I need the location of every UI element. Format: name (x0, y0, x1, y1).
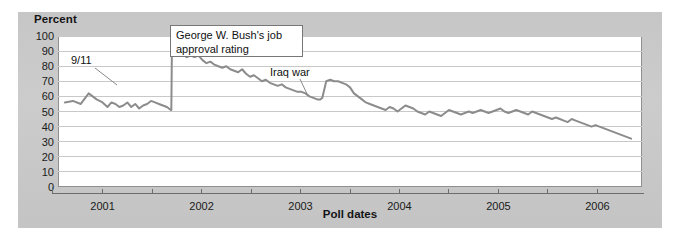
y-tick-label: 80 (24, 61, 54, 71)
y-tick-label: 0 (24, 182, 54, 192)
approval-rating-line (58, 36, 642, 187)
callout-line-2: approval rating (176, 43, 302, 57)
annotation-nine-eleven: 9/11 (71, 54, 92, 66)
annotation-iraq-war: Iraq war (270, 66, 310, 78)
x-axis-title: Poll dates (58, 208, 642, 220)
y-tick-label: 50 (24, 107, 54, 117)
y-tick-label: 60 (24, 91, 54, 101)
y-axis-title: Percent (34, 13, 77, 25)
y-tick-label: 10 (24, 167, 54, 177)
callout-line-1: George W. Bush's job (176, 29, 302, 43)
chart-figure: Percent 1009080706050403020100 George W.… (0, 0, 678, 244)
y-tick-label: 40 (24, 122, 54, 132)
y-tick-label: 20 (24, 152, 54, 162)
y-tick-label: 100 (24, 31, 54, 41)
callout-box: George W. Bush's job approval rating (170, 25, 303, 57)
plot-area (58, 36, 642, 187)
y-tick-label: 30 (24, 137, 54, 147)
y-tick-label: 70 (24, 76, 54, 86)
y-axis-tick-labels: 1009080706050403020100 (20, 31, 54, 192)
y-tick-label: 90 (24, 46, 54, 56)
